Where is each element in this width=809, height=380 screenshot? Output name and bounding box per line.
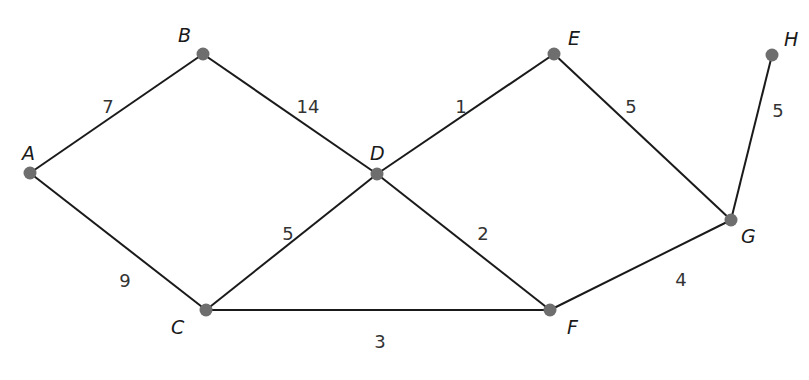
edge-weight-a-c: 9 [119,270,130,291]
node-g [725,214,738,227]
node-label-e: E [568,27,580,49]
node-f [544,304,557,317]
node-layer [24,48,779,317]
node-label-g: G [741,225,756,247]
edge-weight-b-d: 14 [297,96,320,117]
node-a [24,167,37,180]
edge-weight-a-b: 7 [102,96,113,117]
edge-weight-d-e: 1 [455,96,466,117]
edge-weight-f-g: 4 [675,269,686,290]
edge-b-d [203,54,377,174]
edge-f-g [550,220,731,310]
edge-e-g [554,54,731,220]
node-h [766,49,779,62]
node-d [371,168,384,181]
weighted-graph: 71491523545 ABCDEFGH [0,0,809,380]
node-label-h: H [784,28,798,50]
node-label-c: C [171,316,185,338]
node-label-b: B [178,24,191,46]
edge-weight-d-f: 2 [477,223,488,244]
node-label-f: F [567,316,579,338]
node-label-d: D [370,142,385,164]
edge-d-f [377,174,550,310]
edge-weight-c-d: 5 [282,223,293,244]
node-label-a: A [20,142,35,164]
edge-weight-g-h: 5 [772,100,783,121]
edge-layer [30,54,772,310]
edge-weight-e-g: 5 [625,96,636,117]
edge-a-c [30,173,206,310]
node-b [197,48,210,61]
node-c [200,304,213,317]
edge-weight-c-f: 3 [374,331,385,352]
edge-a-b [30,54,203,173]
node-label-layer: ABCDEFGH [20,24,798,338]
node-e [548,48,561,61]
edge-g-h [731,55,772,220]
